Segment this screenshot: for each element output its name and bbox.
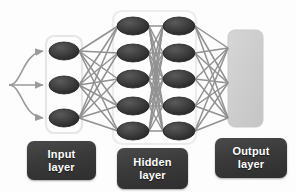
connections-hidden-to-hidden — [149, 26, 163, 131]
neuron-node — [163, 70, 195, 88]
neuron-node — [163, 17, 195, 35]
neuron-node — [163, 122, 195, 140]
neural-network-diagram: Input layer Hidden layer Output layer — [0, 0, 296, 193]
input-layer-label-line1: Input — [48, 148, 76, 161]
output-layer-block — [228, 30, 263, 127]
neuron-node — [163, 44, 195, 62]
output-layer-label-line1: Output — [232, 145, 269, 158]
output-layer-label: Output layer — [215, 138, 287, 178]
hidden-layer-label-line2: layer — [139, 169, 166, 182]
neuron-node — [117, 17, 149, 35]
output-layer-label-line2: layer — [238, 158, 265, 171]
input-layer-nodes — [49, 42, 79, 127]
neuron-node — [49, 109, 79, 127]
input-arrow-bottom — [9, 85, 43, 118]
neuron-node — [49, 76, 79, 94]
input-arrow-top — [9, 51, 43, 85]
neuron-node — [117, 122, 149, 140]
input-layer-label: Input layer — [27, 141, 96, 180]
neuron-node — [117, 70, 149, 88]
neuron-node — [49, 42, 79, 60]
hidden-layer-label: Hidden layer — [117, 148, 188, 189]
connections-hidden-to-output — [195, 26, 228, 131]
input-layer-label-line2: layer — [48, 161, 75, 174]
input-arrows — [9, 51, 43, 118]
neuron-node — [163, 97, 195, 115]
neuron-node — [117, 44, 149, 62]
hidden-layer-label-line1: Hidden — [133, 156, 171, 169]
neuron-node — [117, 97, 149, 115]
